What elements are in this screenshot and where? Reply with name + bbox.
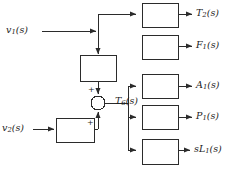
output-label-t2: T2(s): [196, 8, 219, 19]
output-label-a1-main: A: [196, 79, 203, 90]
output-label-f1: F1(s): [196, 40, 219, 51]
output-label-sl1-main: sL: [194, 143, 205, 154]
output-block-sl1-shape: [142, 139, 178, 164]
output-block-p1-shape: [142, 105, 178, 129]
output-block-t2-shape: [142, 3, 178, 27]
output-label-sl1: sL1(s): [194, 144, 222, 155]
output-label-f1-main: F: [196, 39, 203, 50]
output-label-sl1-tail: (s): [210, 143, 222, 154]
input-label-v1-tail: (s): [16, 24, 28, 35]
input-label-v2: v2(s): [2, 123, 24, 134]
gain-block-v1-shape: [80, 55, 116, 81]
output-label-p1: P1(s): [196, 111, 219, 122]
summing-junction-shape: [91, 96, 105, 110]
sum-sign-bottom: +: [87, 119, 94, 127]
output-block-f1-shape: [142, 35, 178, 59]
output-block-a1-shape: [142, 74, 178, 98]
output-label-f1-tail: (s): [207, 39, 219, 50]
sum-sign-top: +: [88, 86, 95, 94]
output-label-a1-tail: (s): [207, 79, 219, 90]
signal-label-t6: T6(s): [115, 96, 138, 107]
output-label-t2-tail: (s): [207, 7, 219, 18]
input-label-v2-tail: (s): [12, 122, 24, 133]
block-diagram-canvas: v1(s) v2(s) T6(s) + + T2(s) F1(s) A1(s) …: [0, 0, 244, 170]
output-label-a1: A1(s): [196, 80, 220, 91]
output-label-p1-tail: (s): [207, 110, 219, 121]
signal-label-t6-tail: (s): [126, 95, 138, 106]
input-label-v1: v1(s): [6, 25, 28, 36]
